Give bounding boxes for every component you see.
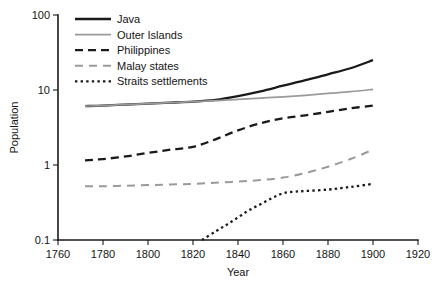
legend-label-java: Java [117, 13, 141, 25]
y-tick-label: 10 [38, 84, 50, 96]
x-tick-label: 1820 [181, 248, 205, 260]
x-tick-label: 1900 [361, 248, 385, 260]
x-tick-label: 1780 [91, 248, 115, 260]
legend-label-malay-states: Malay states [117, 60, 179, 72]
series-line-straits-settlements [202, 184, 373, 240]
y-axis-title: Population [8, 102, 20, 154]
series-line-philippines [85, 106, 373, 161]
y-tick-label: 0.1 [35, 234, 50, 246]
x-axis-title: Year [227, 266, 250, 278]
population-line-chart: 0.11101001760178018001820184018601880190… [0, 0, 437, 282]
chart-canvas: 0.11101001760178018001820184018601880190… [0, 0, 437, 282]
legend-label-philippines: Philippines [117, 44, 171, 56]
y-tick-label: 100 [32, 9, 50, 21]
legend-label-straits-settlements: Straits settlements [117, 75, 208, 87]
x-tick-label: 1840 [226, 248, 250, 260]
x-tick-label: 1800 [136, 248, 160, 260]
legend-label-outer-islands: Outer Islands [117, 29, 183, 41]
y-tick-label: 1 [44, 159, 50, 171]
x-tick-label: 1860 [271, 248, 295, 260]
x-tick-label: 1920 [406, 248, 430, 260]
x-tick-label: 1760 [46, 248, 70, 260]
x-tick-label: 1880 [316, 248, 340, 260]
